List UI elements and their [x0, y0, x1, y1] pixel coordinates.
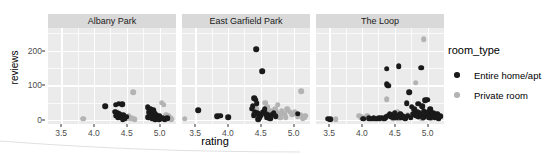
gridline-minor-horizontal [182, 68, 310, 69]
y-tick-label: 100 [16, 80, 42, 90]
data-point [384, 96, 390, 102]
y-tick-label: 0 [16, 115, 42, 125]
data-point [119, 101, 125, 107]
data-point [300, 116, 306, 122]
y-tick-mark [42, 50, 45, 51]
gridline-major-horizontal [316, 85, 444, 86]
data-point [408, 115, 414, 121]
data-point [165, 116, 171, 122]
legend-dot-icon [454, 72, 460, 78]
legend-title: room_type [448, 44, 541, 56]
gridline-minor-vertical [110, 28, 111, 124]
data-point [156, 117, 162, 123]
legend-items: Entire home/aptPrivate room [448, 65, 541, 105]
legend-key-swatch [448, 92, 466, 98]
data-point [396, 63, 402, 69]
gridline-major-horizontal [316, 51, 444, 52]
data-point [253, 47, 259, 53]
x-tick-mark [260, 124, 261, 127]
gridline-major-horizontal [182, 120, 310, 121]
legend-key-swatch [448, 72, 466, 78]
gridline-major-horizontal [48, 85, 176, 86]
x-tick-mark [394, 124, 395, 127]
data-point [406, 89, 412, 95]
gridline-major-vertical [329, 28, 330, 124]
legend-item-label: Entire home/apt [474, 70, 541, 81]
facet-strip-label: East Garfield Park [182, 14, 310, 28]
gridline-major-horizontal [182, 51, 310, 52]
data-point [273, 114, 279, 120]
gridline-major-vertical [94, 28, 95, 124]
gridline-minor-horizontal [316, 68, 444, 69]
gridline-major-vertical [228, 28, 229, 124]
gridline-major-horizontal [48, 51, 176, 52]
x-tick-mark [126, 124, 127, 127]
data-point [132, 116, 138, 122]
gridline-major-vertical [160, 28, 161, 124]
gridline-minor-vertical [346, 28, 347, 124]
gridline-minor-vertical [212, 28, 213, 124]
gridline-minor-horizontal [48, 33, 176, 34]
data-point [267, 116, 273, 122]
facet-panel: The Loop [316, 14, 444, 124]
data-point [424, 97, 430, 103]
data-point [217, 113, 223, 119]
x-tick-mark [427, 124, 428, 127]
gridline-minor-vertical [244, 28, 245, 124]
y-axis-ticks: 0100200 [14, 0, 42, 154]
gridline-minor-horizontal [48, 68, 176, 69]
data-point [437, 114, 443, 120]
data-point [275, 102, 281, 108]
data-point [283, 114, 289, 120]
x-axis-title: rating [0, 135, 430, 147]
y-tick-mark [42, 119, 45, 120]
data-point [102, 103, 108, 109]
gridline-minor-horizontal [182, 33, 310, 34]
scatter-plot-figure: reviews 0100200 Albany Park3.54.04.55.0E… [0, 0, 558, 154]
data-point [255, 116, 261, 122]
facet-panel: Albany Park [48, 14, 176, 124]
legend-dot-icon [454, 92, 460, 98]
y-tick-mark [42, 85, 45, 86]
data-point [384, 66, 390, 72]
data-point [333, 116, 339, 122]
x-tick-mark [329, 124, 330, 127]
x-tick-mark [227, 124, 228, 127]
x-tick-mark [93, 124, 94, 127]
facet-panel: East Garfield Park [182, 14, 310, 124]
legend-item-label: Private room [474, 90, 528, 101]
data-point [413, 80, 419, 86]
legend: room_type Entire home/aptPrivate room [448, 44, 541, 105]
x-tick-mark [195, 124, 196, 127]
data-point [421, 37, 427, 43]
gridline-major-vertical [362, 28, 363, 124]
x-tick-mark [61, 124, 62, 127]
data-point [295, 111, 301, 117]
gridline-major-horizontal [182, 85, 310, 86]
x-tick-mark [361, 124, 362, 127]
facet-strip-label: Albany Park [48, 14, 176, 28]
panel-plot-area [182, 28, 310, 124]
facet-strip-label: The Loop [316, 14, 444, 28]
data-point [225, 114, 231, 120]
data-point [418, 65, 424, 71]
data-point [182, 116, 187, 122]
data-point [81, 116, 87, 122]
gridline-minor-vertical [78, 28, 79, 124]
data-point [328, 116, 334, 122]
data-point [120, 116, 126, 122]
legend-item[interactable]: Entire home/apt [448, 65, 541, 85]
panel-plot-area [316, 28, 444, 124]
gridline-minor-horizontal [182, 103, 310, 104]
data-point [262, 107, 268, 113]
legend-item[interactable]: Private room [448, 85, 541, 105]
y-tick-label: 200 [16, 46, 42, 56]
data-point [381, 116, 387, 122]
gridline-major-vertical [127, 28, 128, 124]
gridline-major-vertical [61, 28, 62, 124]
data-point [196, 108, 202, 114]
data-point [385, 83, 391, 89]
data-point [131, 90, 137, 96]
x-tick-mark [159, 124, 160, 127]
data-point [259, 68, 265, 74]
